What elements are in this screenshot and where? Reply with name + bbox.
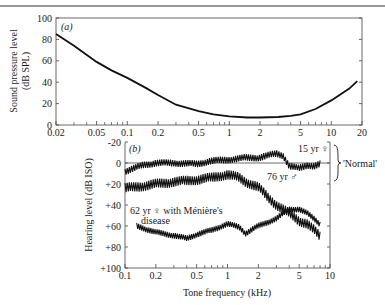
annotation-76yr: 76 yr ♂ bbox=[267, 171, 298, 182]
y-tick-label: 0 bbox=[47, 120, 52, 131]
x-tick-label: 10 bbox=[326, 127, 336, 138]
y-tick-label: +60 bbox=[105, 221, 121, 232]
x-tick-label: 2 bbox=[258, 127, 263, 138]
x-tick-label: 0.5 bbox=[192, 127, 205, 138]
y-tick-label: 60 bbox=[42, 55, 52, 66]
annotation-normal: 'Normal' bbox=[343, 158, 377, 169]
y-tick-label: 100 bbox=[37, 13, 52, 24]
y-tick-label: +100 bbox=[100, 263, 121, 274]
y-tick-label: +20 bbox=[105, 179, 121, 190]
panel-b-x-ticks: 0.10.20.512510 bbox=[119, 264, 335, 281]
panel-b-xlabel: Tone frequency (kHz) bbox=[183, 287, 271, 299]
x-tick-label: 5 bbox=[298, 127, 303, 138]
x-tick-label: 0.2 bbox=[152, 127, 165, 138]
x-tick-label: 0.05 bbox=[88, 127, 106, 138]
y-tick-label: -20 bbox=[108, 137, 121, 148]
x-tick-label: 20 bbox=[357, 127, 367, 138]
panel-b-label: (b) bbox=[129, 143, 141, 155]
panel-b: 0.10.20.512510 -200+20+40+60+80+100 (b) … bbox=[83, 137, 377, 300]
panel-a-y-ticks: 020406080100 bbox=[37, 13, 362, 131]
x-tick-label: 5 bbox=[297, 270, 302, 281]
x-tick-label: 1 bbox=[227, 127, 232, 138]
figure: 0.020.050.10.20.51251020 020406080100 (a… bbox=[0, 0, 385, 305]
y-tick-label: 0 bbox=[116, 158, 121, 169]
panel-a: 0.020.050.10.20.51251020 020406080100 (a… bbox=[8, 13, 367, 139]
x-tick-label: 2 bbox=[256, 270, 261, 281]
panel-a-label: (a) bbox=[61, 21, 73, 33]
x-tick-label: 0.2 bbox=[150, 270, 163, 281]
y-tick-label: 80 bbox=[42, 34, 52, 45]
y-tick-label: 20 bbox=[42, 98, 52, 109]
panel-a-x-ticks: 0.020.050.10.20.51251020 bbox=[47, 121, 367, 138]
panel-a-ylabel-1: Sound pressure level bbox=[8, 29, 19, 113]
panel-a-ylabel-2: (dB SPL) bbox=[20, 52, 32, 90]
x-tick-label: 0.1 bbox=[121, 127, 134, 138]
y-tick-label: 40 bbox=[42, 77, 52, 88]
panel-b-ylabel: Hearing level (dB ISO) bbox=[83, 158, 95, 252]
annotation-15yr: 15 yr ♀ bbox=[298, 143, 329, 154]
annotation-62yr-line2: disease bbox=[141, 215, 170, 226]
normal-brace bbox=[334, 145, 341, 181]
y-tick-label: +80 bbox=[105, 242, 121, 253]
y-tick-label: +40 bbox=[105, 200, 121, 211]
x-tick-label: 10 bbox=[325, 270, 335, 281]
x-tick-label: 1 bbox=[225, 270, 230, 281]
panel-a-threshold-curve bbox=[56, 34, 357, 118]
x-tick-label: 0.5 bbox=[190, 270, 203, 281]
